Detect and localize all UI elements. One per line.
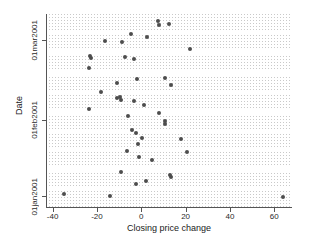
data-point <box>163 122 167 126</box>
y-tick-label: 01feb2001 <box>30 101 40 139</box>
data-point <box>157 23 161 27</box>
data-point <box>132 99 136 103</box>
data-point <box>134 131 138 135</box>
data-point <box>132 57 136 61</box>
y-axis-title: Date <box>14 96 25 115</box>
band-separator <box>46 30 292 34</box>
x-tick-label: 60 <box>270 212 279 222</box>
data-point <box>145 35 149 39</box>
scatter-plot-figure: -40-200204060 01jan200101feb200101mar200… <box>0 0 309 242</box>
data-point <box>103 39 107 43</box>
x-axis-title: Closing price change <box>46 223 292 234</box>
data-point <box>62 192 66 196</box>
x-tick-label: 0 <box>139 212 143 222</box>
band-separator <box>46 129 292 133</box>
data-point <box>167 22 171 26</box>
x-tick-label: -40 <box>47 212 59 222</box>
data-point <box>115 81 119 85</box>
y-tick-label: 01jan2001 <box>30 178 40 215</box>
x-tick-label: 20 <box>181 212 190 222</box>
x-tick-label: 40 <box>225 212 234 222</box>
y-tick-mark <box>42 120 46 121</box>
y-tick-mark <box>42 196 46 197</box>
x-tick-label: -20 <box>91 212 103 222</box>
band-separator <box>46 167 292 171</box>
plot-area <box>46 14 292 207</box>
band-separator <box>46 71 292 75</box>
band-separator <box>46 148 292 152</box>
data-point <box>125 149 129 153</box>
band-separator <box>46 187 292 191</box>
y-axis-line <box>46 14 47 207</box>
data-point <box>136 142 140 146</box>
data-point <box>126 114 130 118</box>
band-separator <box>46 90 292 94</box>
data-point <box>135 77 139 81</box>
data-point <box>163 76 167 80</box>
data-point <box>142 103 146 107</box>
data-point <box>134 182 138 186</box>
band-separator <box>46 110 292 114</box>
x-axis-line <box>46 207 292 208</box>
data-point <box>157 111 161 115</box>
data-point <box>185 150 189 154</box>
y-tick-mark <box>42 40 46 41</box>
data-point <box>123 55 127 59</box>
data-point <box>144 179 148 183</box>
y-tick-label: 01mar2001 <box>30 20 40 60</box>
band-separator <box>46 50 292 54</box>
